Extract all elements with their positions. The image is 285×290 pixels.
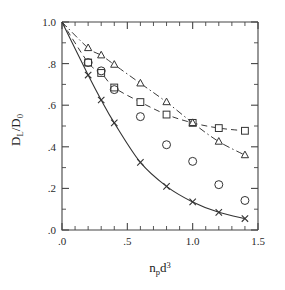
y-tick-label: .6	[48, 99, 57, 111]
x-tick-label: .0	[58, 235, 67, 247]
figure-container: .0.51.01.5 .0.2.4.6.81.0 npd3 DL/D0	[0, 0, 285, 290]
y-tick-label: .2	[48, 182, 56, 194]
plot-background	[0, 0, 285, 290]
x-tick-label: 1.5	[251, 235, 265, 247]
marker-square	[137, 99, 144, 106]
marker-square	[163, 111, 170, 118]
y-tick-label: .0	[48, 224, 57, 236]
marker-square	[242, 127, 249, 134]
scatter-plot: .0.51.01.5 .0.2.4.6.81.0 npd3 DL/D0	[0, 0, 285, 290]
y-tick-label: .8	[48, 58, 57, 70]
y-axis-label: DL/D0	[8, 114, 25, 146]
x-tick-label: .5	[123, 235, 132, 247]
y-tick-label: .4	[48, 141, 57, 153]
svg-text:DL/D0: DL/D0	[8, 114, 25, 146]
marker-square	[85, 59, 92, 66]
marker-square	[215, 125, 222, 132]
x-tick-label: 1.0	[186, 235, 200, 247]
y-tick-label: 1.0	[42, 16, 56, 28]
